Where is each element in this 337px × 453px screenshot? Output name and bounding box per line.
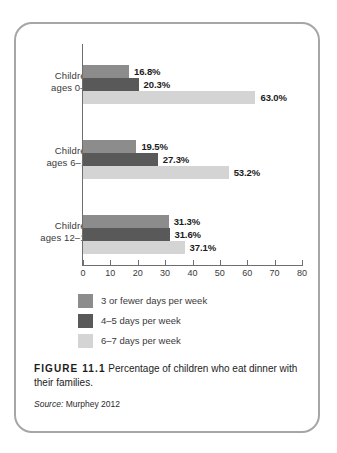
legend-item-0: 3 or fewer days per week bbox=[78, 292, 318, 312]
legend-item-1: 4–5 days per week bbox=[78, 312, 318, 332]
category-label-1-line-0: Children bbox=[0, 145, 91, 157]
bar-value-label-2-1: 31.6% bbox=[175, 228, 201, 241]
x-tick-label-0: 0 bbox=[71, 268, 95, 278]
legend-label-0: 3 or fewer days per week bbox=[101, 292, 207, 309]
x-tick-10 bbox=[110, 260, 111, 266]
x-tick-label-70: 70 bbox=[263, 268, 287, 278]
bar-value-label-1-0: 19.5% bbox=[141, 140, 167, 153]
bar-1-1 bbox=[83, 153, 158, 166]
x-tick-40 bbox=[193, 260, 194, 266]
chart-legend: 3 or fewer days per week 4–5 days per we… bbox=[78, 292, 318, 352]
x-tick-label-50: 50 bbox=[208, 268, 232, 278]
bar-value-label-1-1: 27.3% bbox=[163, 153, 189, 166]
x-tick-80 bbox=[302, 260, 303, 266]
category-label-0: Children ages 0–5 bbox=[0, 70, 91, 93]
legend-swatch-1 bbox=[78, 314, 93, 328]
figure-source: Source: Murphey 2012 bbox=[34, 399, 306, 409]
category-label-1-line-1: ages 6–11 bbox=[0, 157, 91, 169]
x-tick-label-20: 20 bbox=[126, 268, 150, 278]
bar-value-label-2-0: 31.3% bbox=[174, 215, 200, 228]
bar-value-label-2-2: 37.1% bbox=[190, 241, 216, 254]
legend-label-2: 6–7 days per week bbox=[101, 332, 181, 349]
bar-1-2 bbox=[83, 166, 229, 179]
figure-frame: Children ages 0–5 Children ages 6–11 Chi… bbox=[14, 22, 320, 433]
x-tick-label-60: 60 bbox=[235, 268, 259, 278]
bar-1-0 bbox=[83, 140, 136, 153]
category-label-0-line-0: Children bbox=[0, 70, 91, 82]
bar-value-label-0-0: 16.8% bbox=[134, 65, 160, 78]
legend-swatch-2 bbox=[78, 334, 93, 348]
category-label-0-line-1: ages 0–5 bbox=[0, 82, 91, 94]
category-label-2-line-1: ages 12–17 bbox=[0, 232, 91, 244]
bar-0-0 bbox=[83, 65, 129, 78]
x-tick-0 bbox=[83, 260, 84, 266]
category-label-2-line-0: Children bbox=[0, 220, 91, 232]
figure-label: FIGURE 11.1 bbox=[34, 363, 106, 374]
x-tick-30 bbox=[165, 260, 166, 266]
bar-value-label-0-2: 63.0% bbox=[260, 91, 286, 104]
x-tick-20 bbox=[138, 260, 139, 266]
category-label-2: Children ages 12–17 bbox=[0, 220, 91, 243]
legend-label-1: 4–5 days per week bbox=[101, 312, 181, 329]
x-tick-60 bbox=[247, 260, 248, 266]
x-tick-label-40: 40 bbox=[181, 268, 205, 278]
bar-0-1 bbox=[83, 78, 139, 91]
bar-0-2 bbox=[83, 91, 255, 104]
bar-chart: Children ages 0–5 Children ages 6–11 Chi… bbox=[16, 24, 322, 277]
source-value: Murphey 2012 bbox=[66, 399, 120, 409]
source-word: Source: bbox=[34, 399, 63, 409]
bar-2-2 bbox=[83, 241, 185, 254]
legend-swatch-0 bbox=[78, 294, 93, 308]
figure-caption: FIGURE 11.1 Percentage of children who e… bbox=[34, 362, 306, 389]
x-tick-70 bbox=[275, 260, 276, 266]
x-tick-label-30: 30 bbox=[153, 268, 177, 278]
x-tick-label-80: 80 bbox=[290, 268, 314, 278]
bar-2-1 bbox=[83, 228, 170, 241]
category-label-1: Children ages 6–11 bbox=[0, 145, 91, 168]
x-tick-label-10: 10 bbox=[98, 268, 122, 278]
x-tick-50 bbox=[220, 260, 221, 266]
bar-2-0 bbox=[83, 215, 169, 228]
y-axis-line bbox=[82, 44, 83, 266]
figure-caption-block: FIGURE 11.1 Percentage of children who e… bbox=[34, 362, 306, 409]
bar-value-label-0-1: 20.3% bbox=[144, 78, 170, 91]
legend-item-2: 6–7 days per week bbox=[78, 332, 318, 352]
bar-value-label-1-2: 53.2% bbox=[234, 166, 260, 179]
